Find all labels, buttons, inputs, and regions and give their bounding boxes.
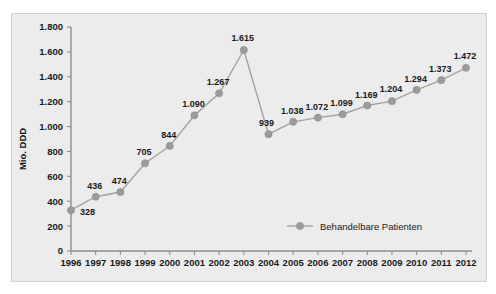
x-tick-label: 2011	[431, 257, 452, 268]
data-point-label: 1.099	[330, 98, 353, 108]
y-tick-label: 1.400	[39, 71, 63, 82]
x-tick-label: 2008	[357, 257, 378, 268]
data-point-label: 1.204	[380, 84, 403, 94]
x-tick-label: 1999	[134, 257, 155, 268]
x-tick-label: 2005	[283, 257, 305, 268]
x-axis: 1996199719981999200020012002200320042005…	[60, 251, 476, 268]
y-tick-label: 200	[47, 221, 63, 232]
data-point-marker[interactable]	[364, 102, 371, 109]
data-point-label: 705	[137, 147, 152, 157]
data-point-marker[interactable]	[462, 64, 469, 71]
data-point-label: 1.615	[232, 33, 255, 43]
data-point-marker[interactable]	[216, 90, 223, 97]
x-tick-label: 2003	[233, 257, 254, 268]
y-tick-label: 1.000	[39, 121, 63, 132]
data-point-label: 1.169	[355, 90, 378, 100]
data-point-marker[interactable]	[388, 98, 395, 105]
y-tick-label: 1.200	[39, 96, 63, 107]
data-point-label: 844	[161, 130, 176, 140]
x-tick-label: 1996	[60, 257, 81, 268]
line-chart-svg: 02004006008001.0001.2001.4001.6001.800Mi…	[12, 14, 486, 281]
data-point-label: 1.294	[404, 74, 427, 84]
data-point-marker[interactable]	[438, 77, 445, 84]
y-tick-label: 600	[47, 171, 63, 182]
data-point-marker[interactable]	[314, 114, 321, 121]
y-tick-label: 800	[47, 146, 63, 157]
chart-legend[interactable]: Behandelbare Patienten	[287, 221, 422, 232]
data-point-label: 1.090	[182, 99, 205, 109]
y-axis: 02004006008001.0001.2001.4001.6001.800	[39, 21, 71, 256]
data-point-marker[interactable]	[191, 112, 198, 119]
x-tick-label: 2004	[258, 257, 280, 268]
data-point-label: 328	[80, 207, 95, 217]
x-tick-label: 2010	[406, 257, 427, 268]
y-tick-label: 0	[58, 245, 63, 256]
legend-marker-icon	[296, 222, 303, 229]
data-point-marker[interactable]	[413, 86, 420, 93]
legend-label: Behandelbare Patienten	[320, 221, 422, 232]
data-point-label: 474	[112, 176, 127, 186]
chart-figure: 02004006008001.0001.2001.4001.6001.800Mi…	[0, 0, 496, 294]
data-point-marker[interactable]	[166, 142, 173, 149]
data-point-label: 939	[259, 118, 274, 128]
x-tick-label: 2009	[381, 257, 402, 268]
data-point-marker[interactable]	[141, 160, 148, 167]
x-tick-label: 2001	[184, 257, 206, 268]
data-point-label: 1.267	[207, 77, 230, 87]
data-point-marker[interactable]	[92, 193, 99, 200]
y-tick-label: 1.600	[39, 46, 63, 57]
x-tick-label: 1998	[110, 257, 131, 268]
x-tick-label: 2002	[209, 257, 230, 268]
data-point-label: 1.072	[306, 102, 329, 112]
x-tick-label: 2007	[332, 257, 353, 268]
data-point-marker[interactable]	[265, 131, 272, 138]
y-axis-title: Mio. DDD	[17, 128, 28, 170]
y-tick-label: 1.800	[39, 21, 63, 32]
data-point-marker[interactable]	[290, 118, 297, 125]
x-tick-label: 2006	[307, 257, 328, 268]
data-point-label: 436	[87, 181, 102, 191]
data-point-marker[interactable]	[339, 111, 346, 118]
chart-plot-frame: 02004006008001.0001.2001.4001.6001.800Mi…	[11, 13, 487, 282]
data-point-marker[interactable]	[240, 46, 247, 53]
x-tick-label: 1997	[85, 257, 106, 268]
data-point-label: 1.038	[281, 106, 304, 116]
data-point-label: 1.472	[454, 51, 477, 61]
x-tick-label: 2012	[455, 257, 476, 268]
data-point-label: 1.373	[429, 64, 452, 74]
data-point-marker[interactable]	[117, 188, 124, 195]
data-point-marker[interactable]	[67, 207, 74, 214]
y-tick-label: 400	[47, 196, 63, 207]
x-tick-label: 2000	[159, 257, 180, 268]
